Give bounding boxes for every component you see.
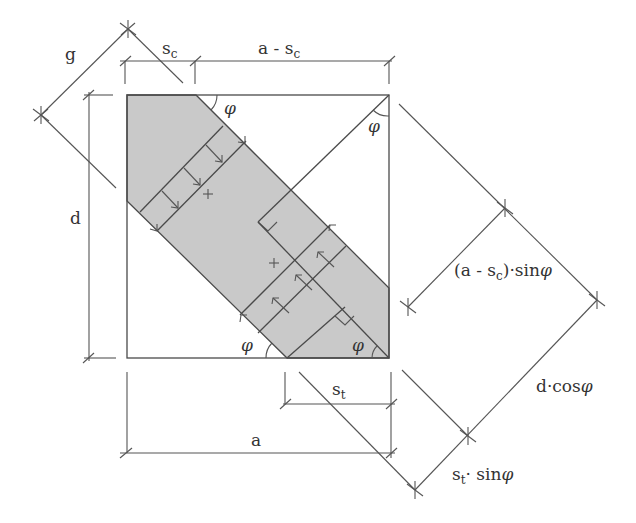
label-sc: sc	[162, 40, 177, 60]
label-sc-base: s	[162, 38, 171, 58]
part-phi: φ	[540, 260, 552, 280]
label-a-minus-sc-prefix: a - s	[258, 38, 293, 58]
part-sub: c	[496, 269, 503, 283]
label-a-minus-sc: a - sc	[258, 40, 300, 60]
label-st-sub: t	[341, 388, 346, 402]
shaded-band	[127, 95, 389, 358]
label-d-cosphi: d·cosφ	[536, 378, 593, 395]
part-prefix: d·cos	[536, 376, 581, 396]
part-suffix: · sin	[466, 464, 502, 484]
label-st: st	[332, 381, 346, 401]
part-prefix: (a - s	[454, 260, 496, 280]
diagonal-line	[258, 95, 389, 222]
dimension-d	[83, 90, 116, 363]
label-g: g	[65, 46, 76, 63]
label-phi-top: φ	[224, 100, 236, 117]
part-phi: φ	[581, 376, 593, 396]
label-st-base: s	[332, 379, 341, 399]
part-phi: φ	[501, 464, 513, 484]
label-phi-bottom-right: φ	[352, 337, 364, 354]
label-a-minus-sc-sub: c	[293, 47, 300, 61]
label-sc-sub: c	[171, 47, 178, 61]
label-a-sc-sinphi: (a - sc)·sinφ	[454, 262, 552, 282]
label-phi-right: φ	[368, 118, 380, 135]
label-d: d	[70, 210, 81, 227]
label-phi-bottom-left: φ	[241, 337, 253, 354]
label-st-sinphi: st· sinφ	[452, 466, 513, 486]
part-base: s	[452, 464, 461, 484]
part-suffix: )·sin	[503, 260, 540, 280]
label-a: a	[251, 432, 261, 449]
